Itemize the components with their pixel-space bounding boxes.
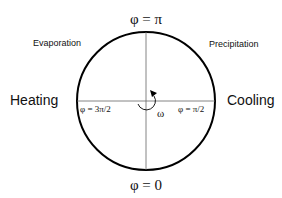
label-evaporation: Evaporation — [33, 38, 81, 48]
label-left-inner: φ = 3π/2 — [80, 104, 111, 114]
label-heating: Heating — [10, 92, 58, 108]
label-top: φ = π — [130, 11, 163, 27]
omega-rotation-arrow-icon — [138, 96, 155, 110]
label-precipitation: Precipitation — [209, 39, 259, 49]
phase-cycle-diagram: φ = π φ = 0 φ = 3π/2 φ = π/2 ω Heating C… — [0, 0, 282, 198]
label-right-inner: φ = π/2 — [178, 104, 204, 114]
label-bottom: φ = 0 — [130, 177, 162, 193]
arrowhead-icon — [150, 90, 157, 97]
label-cooling: Cooling — [227, 92, 274, 108]
label-omega: ω — [157, 107, 164, 119]
